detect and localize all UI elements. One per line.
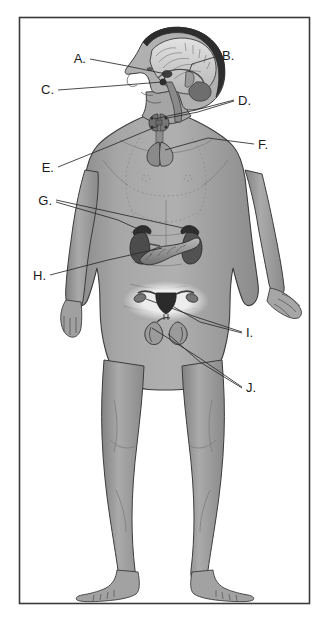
label-h: H. — [33, 268, 46, 283]
endocrine-diagram-figure: A. B. C. D. E. F. G. H. I. J. — [0, 0, 329, 621]
label-e: E. — [42, 160, 54, 175]
label-b: B. — [222, 48, 234, 63]
parathyroid-gland-organ — [165, 126, 168, 129]
hypothalamus-organ — [162, 71, 172, 78]
label-g: G. — [38, 193, 52, 208]
label-j: J. — [246, 380, 256, 395]
label-a: A. — [74, 51, 86, 66]
label-f: F. — [258, 137, 268, 152]
label-d: D. — [238, 93, 251, 108]
label-c: C. — [41, 82, 54, 97]
label-i: I. — [246, 325, 253, 340]
parathyroid-gland-organ — [151, 117, 154, 120]
anatomy-diagram-canvas: A. B. C. D. E. F. G. H. I. J. — [0, 0, 329, 621]
